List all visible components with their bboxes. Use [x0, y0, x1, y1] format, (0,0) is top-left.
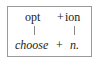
- plus-sign-top: +: [57, 11, 64, 23]
- gloss-noun: n.: [70, 39, 79, 51]
- plus-sign-bottom: +: [56, 39, 63, 51]
- connector-line-right: [74, 26, 75, 35]
- morpheme-ion: ion: [65, 11, 80, 23]
- gloss-choose: choose: [15, 39, 48, 51]
- connector-line-left: [34, 26, 35, 35]
- morpheme-opt: opt: [25, 11, 40, 23]
